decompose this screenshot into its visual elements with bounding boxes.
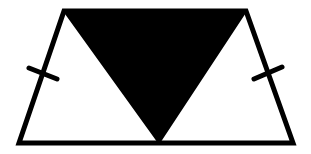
shaded-triangle: [64, 11, 246, 143]
diagram-canvas: [0, 0, 311, 154]
trapezoid-diagram: [0, 0, 311, 154]
